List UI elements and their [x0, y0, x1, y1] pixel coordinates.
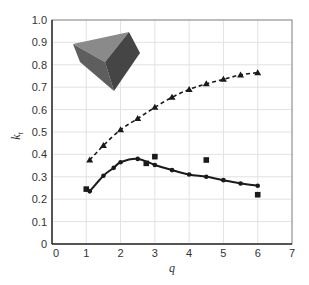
- svg-text:0: 0: [41, 238, 47, 250]
- svg-text:0.2: 0.2: [32, 193, 47, 205]
- svg-text:0.4: 0.4: [32, 148, 47, 160]
- y-tick-labels: 00.10.20.30.40.50.60.70.80.91.0: [32, 14, 47, 250]
- svg-text:6: 6: [255, 247, 261, 259]
- svg-text:0.1: 0.1: [32, 216, 47, 228]
- svg-text:2: 2: [118, 247, 124, 259]
- svg-text:5: 5: [220, 247, 226, 259]
- svg-text:0.6: 0.6: [32, 104, 47, 116]
- chart: 01234567 00.10.20.30.40.50.60.70.80.91.0…: [0, 0, 309, 285]
- svg-text:1: 1: [83, 247, 89, 259]
- svg-text:7: 7: [289, 247, 295, 259]
- svg-text:3: 3: [152, 247, 158, 259]
- svg-text:0.9: 0.9: [32, 36, 47, 48]
- y-axis-label: kt: [9, 131, 25, 139]
- svg-text:0.5: 0.5: [32, 126, 47, 138]
- svg-text:kt: kt: [9, 131, 25, 139]
- svg-text:0: 0: [53, 247, 59, 259]
- data-series: [83, 69, 261, 197]
- svg-text:1.0: 1.0: [32, 14, 47, 26]
- svg-text:0.7: 0.7: [32, 81, 47, 93]
- x-axis-label: q: [169, 261, 175, 275]
- svg-text:0.8: 0.8: [32, 59, 47, 71]
- svg-text:4: 4: [186, 247, 192, 259]
- polyhedron-inset-icon: [73, 32, 140, 91]
- x-tick-labels: 01234567: [53, 247, 295, 259]
- svg-text:0.3: 0.3: [32, 171, 47, 183]
